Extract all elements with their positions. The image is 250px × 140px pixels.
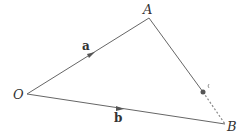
point-o-label: O — [13, 88, 24, 101]
point-a-label: A — [143, 3, 152, 16]
tick-mark — [208, 84, 209, 88]
vector-b-line — [27, 94, 225, 124]
point-p-dot — [201, 90, 206, 95]
vector-a-label: a — [82, 40, 90, 52]
vector-b-label: b — [114, 112, 122, 124]
segment-a-p — [149, 18, 203, 92]
segment-p-b — [203, 92, 225, 124]
point-b-label: B — [227, 120, 237, 133]
diagram-canvas — [0, 0, 250, 140]
vector-diagram: A O B a b — [0, 0, 250, 140]
